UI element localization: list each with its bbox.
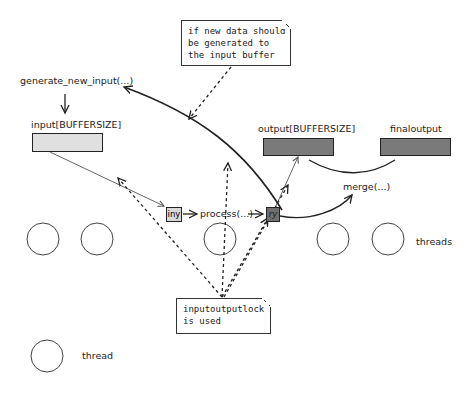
thread-legend-label: thread	[82, 350, 113, 361]
thread-circle-2	[81, 223, 113, 255]
note-fold-icon	[282, 20, 291, 29]
thread-circle-1	[27, 223, 59, 255]
process-label: process(...)	[200, 208, 253, 219]
regenerate-curve-arrow	[124, 87, 282, 210]
input-buffer	[32, 133, 103, 152]
note-line: inputoutputlock	[183, 303, 264, 315]
note-new-data: if new data should be generated to the i…	[181, 20, 291, 66]
note-line: is used	[183, 315, 264, 327]
final-output-label: finaloutput	[390, 123, 442, 134]
note-line: the input buffer	[188, 49, 284, 61]
generate-new-input-label: generate_new_input(...)	[20, 75, 133, 86]
item-to-merge-curve-arrow	[280, 195, 352, 218]
output-buffer-label: output[BUFFERSIZE]	[258, 123, 355, 134]
item-to-output-arrow	[275, 157, 298, 208]
merge-label: merge(...)	[343, 181, 390, 192]
input-to-iny-arrow	[50, 152, 164, 206]
output-to-final-curve	[309, 160, 395, 173]
thread-legend-circle	[31, 340, 63, 372]
thread-circle-5	[372, 223, 404, 255]
top-note-pointer	[189, 67, 231, 119]
note-line: if new data should	[188, 25, 284, 37]
note-fold-icon	[262, 298, 271, 307]
thread-circle-4	[317, 223, 349, 255]
note-lock: inputoutputlock is used	[176, 298, 271, 334]
thread-circle-3	[204, 223, 236, 255]
output-buffer	[263, 138, 334, 156]
final-output-buffer	[380, 138, 451, 156]
threads-label: threads	[416, 236, 452, 247]
input-buffer-label: input[BUFFERSIZE]	[31, 119, 121, 130]
input-item-box: iny	[166, 207, 182, 222]
note-line: be generated to	[188, 37, 284, 49]
output-item-box: ry	[266, 207, 280, 222]
